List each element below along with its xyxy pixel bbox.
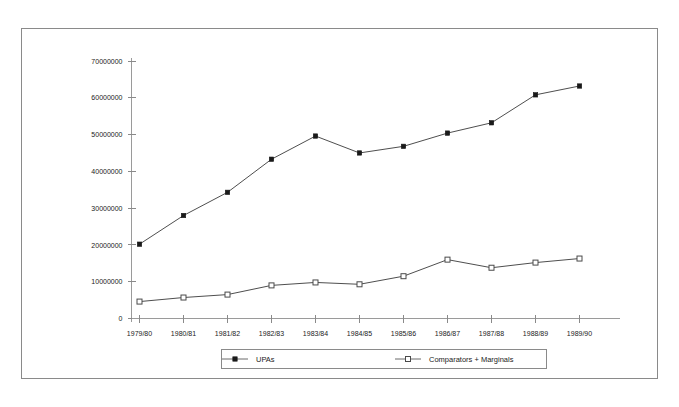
y-tick-label: 20000000	[91, 242, 122, 249]
y-tick-label: 0	[119, 315, 123, 322]
y-tick-labels: 0100000002000000030000000400000005000000…	[91, 58, 122, 323]
data-point-marker	[181, 213, 185, 217]
legend-items: UPAsComparators + Marginals	[222, 355, 514, 364]
y-tick-label: 40000000	[91, 168, 122, 175]
data-point-marker	[181, 295, 186, 300]
data-point-marker	[489, 121, 493, 125]
x-tick-label: 1989/90	[567, 330, 592, 337]
data-point-marker	[445, 257, 450, 262]
data-point-marker	[533, 93, 537, 97]
data-point-marker	[269, 283, 274, 288]
data-point-marker	[577, 84, 581, 88]
series-line	[140, 86, 580, 244]
legend-item-1[interactable]: UPAs	[222, 355, 275, 364]
data-point-marker	[357, 151, 361, 155]
legend-label: Comparators + Marginals	[429, 355, 514, 364]
x-tick-label: 1988/89	[523, 330, 548, 337]
x-tick-label: 1982/83	[259, 330, 284, 337]
data-point-marker	[225, 292, 230, 297]
series-2	[137, 256, 582, 304]
legend-label: UPAs	[256, 355, 275, 364]
y-tick-label: 60000000	[91, 94, 122, 101]
series-line	[140, 259, 580, 302]
y-tick-label: 50000000	[91, 131, 122, 138]
line-chart: 0100000002000000030000000400000005000000…	[0, 0, 679, 407]
x-tick-label: 1979/80	[127, 330, 152, 337]
legend-marker	[406, 357, 411, 362]
data-point-marker	[225, 190, 229, 194]
legend-marker	[233, 357, 237, 361]
data-point-marker	[445, 131, 449, 135]
chart-legend: UPAsComparators + Marginals	[222, 350, 547, 369]
x-tick-labels: 1979/801980/811981/821982/831983/841984/…	[127, 330, 592, 337]
data-point-marker	[313, 134, 317, 138]
y-tick-label: 10000000	[91, 278, 122, 285]
data-point-marker	[137, 299, 142, 304]
x-tick-label: 1985/86	[391, 330, 416, 337]
x-tick-label: 1984/85	[347, 330, 372, 337]
x-tick-label: 1986/87	[435, 330, 460, 337]
data-point-marker	[577, 256, 582, 261]
y-tick-label: 70000000	[91, 58, 122, 65]
x-axis: 1979/801980/811981/821982/831983/841984/…	[127, 315, 620, 337]
x-tick-label: 1983/84	[303, 330, 328, 337]
data-point-marker	[269, 157, 273, 161]
x-tick-label: 1981/82	[215, 330, 240, 337]
x-tick-label: 1980/81	[171, 330, 196, 337]
data-point-marker	[357, 282, 362, 287]
y-tick-label: 30000000	[91, 205, 122, 212]
data-point-marker	[401, 144, 405, 148]
data-point-marker	[313, 280, 318, 285]
data-point-marker	[533, 260, 538, 265]
series-1	[137, 84, 581, 247]
data-point-marker	[137, 242, 141, 246]
y-axis: 0100000002000000030000000400000005000000…	[91, 58, 135, 323]
legend-item-2[interactable]: Comparators + Marginals	[395, 355, 514, 364]
data-point-marker	[489, 265, 494, 270]
data-point-marker	[401, 274, 406, 279]
data-series-group	[137, 84, 582, 304]
x-tick-label: 1987/88	[479, 330, 504, 337]
